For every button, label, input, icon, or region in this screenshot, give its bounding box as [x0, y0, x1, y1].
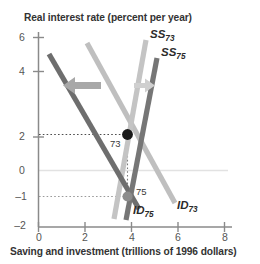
x-tick-label-6: 6 [170, 231, 186, 243]
curve-label-id73-sub: 73 [189, 205, 198, 214]
y-tick-label-0: 0 [14, 164, 30, 176]
curve-label-ss73: SS73 [150, 28, 174, 43]
curve-label-id73: ID73 [177, 199, 198, 214]
chart-figure: Real interest rate (percent per year) Sa… [0, 0, 260, 264]
x-axis-title: Saving and investment (trillions of 1996… [10, 246, 237, 257]
point-label-73: 73 [110, 138, 121, 149]
x-tick-label-0: 0 [31, 231, 47, 243]
x-tick-label-4: 4 [124, 231, 140, 243]
equilibrium-point-73 [122, 129, 133, 140]
curve-label-ss73-base: SS [150, 28, 165, 40]
curve-label-ss75-base: SS [161, 46, 176, 58]
curve-label-ss75-sub: 75 [176, 52, 185, 61]
curve-label-id75-base: ID [133, 204, 145, 216]
x-tick-label-8: 8 [217, 231, 233, 243]
point-label-75: 75 [136, 186, 147, 197]
curve-label-ss75: SS75 [161, 46, 185, 61]
equilibrium-point-75 [123, 192, 133, 202]
y-tick-label-4: 4 [14, 65, 30, 77]
curve-label-id73-base: ID [177, 199, 189, 211]
chart-plot-area [0, 0, 260, 264]
curve-label-ss73-sub: 73 [165, 34, 174, 43]
y-tick-label-2: 2 [14, 130, 30, 142]
curve-label-id75-sub: 75 [145, 210, 154, 219]
x-tick-label-2: 2 [77, 231, 93, 243]
y-tick-label-neg1: –1 [12, 190, 30, 202]
y-tick-label-6: 6 [14, 31, 30, 43]
curve-label-id75: ID75 [133, 204, 154, 219]
y-tick-label-neg2: –2 [10, 219, 30, 231]
y-axis-title: Real interest rate (percent per year) [24, 12, 192, 23]
